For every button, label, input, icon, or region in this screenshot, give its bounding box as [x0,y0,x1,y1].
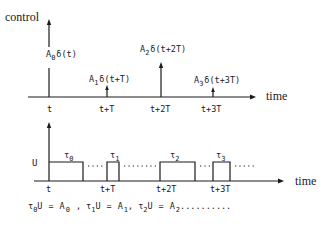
impulse-label: A0δ(t) [46,49,77,62]
tick-label: t+2T [156,184,176,194]
pulse-2 [160,162,195,181]
arrow-head-icon [278,179,284,184]
impulse-label: A3δ(t+3T) [194,75,240,88]
x-axis-label-time-bottom: time [295,174,316,188]
pulse-width-label: τ0 [64,150,73,163]
arrow-head-icon [105,85,109,90]
top-plot: control time A0δ(t) A1δ(t+T) [5,10,287,114]
level-label-u: U [32,158,37,168]
impulse-2: A2δ(t+2T) [140,44,186,97]
equation-relation: τ0U=A0,τ1U=A1,τ2U=A2.......... [28,201,231,214]
tick-label: t+2T [150,104,170,114]
arrow-head-icon [47,19,51,25]
tick-label: t+3T [210,184,230,194]
impulse-label: A1δ(t+T) [89,74,130,87]
arrow-head-icon [250,95,256,100]
impulse-vs-pulse-diagram: control time A0δ(t) A1δ(t+T) [0,0,329,228]
tick-label: t+T [100,184,115,194]
pulse-width-label: τ1 [110,150,119,163]
arrow-head-icon [211,87,215,92]
pulse-width-label: τ2 [170,150,179,163]
bottom-plot: U time τ0 τ1 τ2 τ3 t t+T t+2T t+3T [32,122,316,194]
tick-label: t+T [99,104,114,114]
x-axis-label-time-top: time [266,89,287,103]
impulse-0: A0δ(t) [46,19,77,97]
tick-label: t [46,184,51,194]
pulse-width-label: τ3 [216,150,225,163]
tick-label: t+3T [201,104,221,114]
tick-label: t [47,104,52,114]
pulse-1 [107,162,119,181]
arrow-head-icon [159,62,163,68]
pulse-3 [213,162,230,181]
impulse-label: A2δ(t+2T) [140,44,186,57]
pulse-0 [49,162,83,181]
impulse-1: A1δ(t+T) [89,74,130,97]
arrow-head-icon [47,122,51,128]
y-axis-label-control: control [5,10,40,24]
impulse-3: A3δ(t+3T) [194,75,240,97]
